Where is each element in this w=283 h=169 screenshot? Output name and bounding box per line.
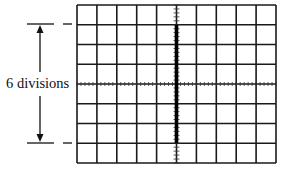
oscilloscope-diagram: 6 divisions [0,0,283,169]
divisions-label: 6 divisions [6,75,70,92]
arrow-up-icon [37,25,44,33]
arrow-down-icon [37,134,44,142]
